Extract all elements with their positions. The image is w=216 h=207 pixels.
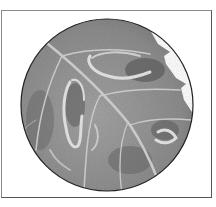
magnified-leaf-illustration — [0, 0, 216, 207]
leaf-view — [0, 0, 216, 207]
